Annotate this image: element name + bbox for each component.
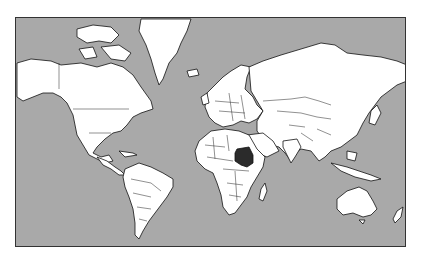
map-svg [16, 18, 406, 247]
world-map [15, 17, 406, 247]
north-america [17, 59, 153, 163]
australia [337, 187, 377, 217]
greenland [139, 19, 191, 85]
south-america [123, 163, 173, 239]
